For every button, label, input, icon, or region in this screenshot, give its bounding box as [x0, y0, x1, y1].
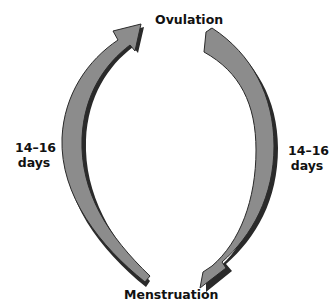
left-arrow-up-icon — [62, 24, 150, 287]
cycle-diagram: Ovulation Menstruation 14–16 days 14–16 … — [0, 0, 336, 308]
menstruation-label: Menstruation — [124, 289, 218, 302]
left-interval-label: 14–16 days — [15, 140, 53, 170]
right-interval-unit: days — [288, 158, 326, 173]
left-interval-range: 14–16 — [15, 140, 53, 155]
right-interval-range: 14–16 — [288, 143, 326, 158]
right-arrow-down-icon — [200, 28, 278, 292]
ovulation-label: Ovulation — [155, 14, 223, 27]
right-interval-label: 14–16 days — [288, 143, 326, 173]
left-interval-unit: days — [15, 155, 53, 170]
